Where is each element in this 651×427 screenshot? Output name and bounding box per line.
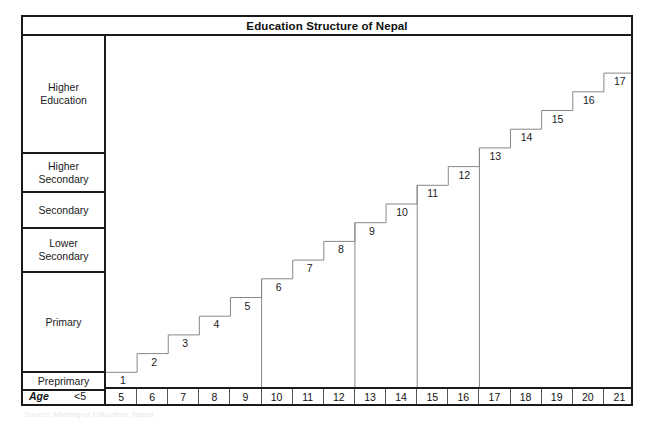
chart-title-band: Education Structure of Nepal (23, 17, 631, 36)
plot-area: 1234567891011121314151617 56789101112131… (106, 36, 631, 404)
step-label-5: 5 (245, 300, 251, 312)
level-label-higher-secondary: HigherSecondary (38, 160, 88, 186)
step-label-4: 4 (213, 318, 219, 330)
age-tick-13: 13 (355, 389, 386, 404)
age-tick-11: 11 (293, 389, 324, 404)
age-scale-row: 56789101112131415161718192021 (106, 387, 631, 404)
staircase-plot: 1234567891011121314151617 (106, 36, 631, 387)
age-row-label: Age (29, 390, 49, 402)
age-tick-16: 16 (448, 389, 479, 404)
step-label-17: 17 (614, 75, 626, 87)
level-label-secondary: Secondary (38, 204, 88, 217)
step-label-3: 3 (182, 337, 188, 349)
age-row-label-cell: Age <5 (23, 387, 104, 404)
level-band-higher-secondary: HigherSecondary (23, 154, 104, 193)
level-band-primary: Primary (23, 273, 104, 373)
age-tick-12: 12 (324, 389, 355, 404)
step-label-1: 1 (120, 374, 126, 386)
step-label-8: 8 (338, 243, 344, 255)
step-label-16: 16 (583, 94, 595, 106)
staircase-line (106, 36, 631, 387)
step-label-6: 6 (276, 281, 282, 293)
age-tick-6: 6 (137, 389, 168, 404)
level-label-primary: Primary (45, 316, 81, 329)
age-tick-7: 7 (168, 389, 199, 404)
level-band-secondary: Secondary (23, 193, 104, 229)
age-tick-17: 17 (479, 389, 510, 404)
age-tick-9: 9 (230, 389, 261, 404)
step-label-15: 15 (552, 113, 564, 125)
age-tick-19: 19 (542, 389, 573, 404)
level-band-higher-education: HigherEducation (23, 36, 104, 154)
age-tick-18: 18 (511, 389, 542, 404)
step-label-12: 12 (458, 169, 470, 181)
education-structure-chart: Education Structure of Nepal HigherEduca… (21, 15, 633, 406)
age-tick-21: 21 (604, 389, 635, 404)
level-label-column: HigherEducation HigherSecondary Secondar… (23, 36, 106, 404)
source-note: Source: Ministry of Education, Nepal (24, 410, 153, 419)
level-label-preprimary: Preprimary (38, 375, 89, 388)
level-label-lower-secondary: LowerSecondary (38, 237, 88, 263)
age-tick-8: 8 (199, 389, 230, 404)
level-band-lower-secondary: LowerSecondary (23, 229, 104, 273)
step-label-14: 14 (521, 131, 533, 143)
age-tick-10: 10 (262, 389, 293, 404)
step-label-9: 9 (369, 225, 375, 237)
level-label-higher-education: HigherEducation (40, 81, 87, 107)
page-title: Education Structure of Nepal (246, 20, 407, 32)
step-label-7: 7 (307, 262, 313, 274)
age-preschool-label: <5 (74, 390, 86, 402)
step-label-13: 13 (490, 150, 502, 162)
step-label-10: 10 (396, 206, 408, 218)
age-tick-14: 14 (386, 389, 417, 404)
age-tick-15: 15 (417, 389, 448, 404)
age-tick-20: 20 (573, 389, 604, 404)
age-tick-5: 5 (106, 389, 137, 404)
step-label-11: 11 (427, 187, 438, 199)
step-label-2: 2 (151, 356, 157, 368)
